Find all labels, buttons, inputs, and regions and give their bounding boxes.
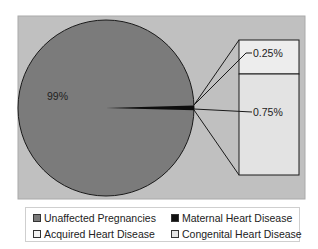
label-unaffected: 99%	[47, 90, 68, 102]
chart-legend: Unaffected Pregnancies Maternal Heart Di…	[25, 207, 300, 242]
swatch-unaffected	[33, 214, 41, 222]
label-acquired: 0.25%	[253, 47, 283, 59]
legend-label: Unaffected Pregnancies	[44, 212, 156, 224]
swatch-maternal	[171, 214, 179, 222]
legend-item-maternal: Maternal Heart Disease	[171, 212, 292, 224]
legend-label: Maternal Heart Disease	[182, 212, 292, 224]
legend-item-unaffected: Unaffected Pregnancies	[33, 212, 156, 224]
legend-item-acquired: Acquired Heart Disease	[33, 228, 155, 240]
swatch-congenital	[171, 230, 179, 238]
swatch-acquired	[33, 230, 41, 238]
legend-label: Acquired Heart Disease	[44, 228, 155, 240]
legend-label: Congenital Heart Disease	[182, 228, 302, 240]
bar-segment-congenital	[239, 74, 299, 175]
legend-item-congenital: Congenital Heart Disease	[171, 228, 302, 240]
label-congenital: 0.75%	[253, 106, 283, 118]
